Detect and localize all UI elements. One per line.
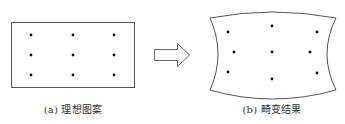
distorted-dot-grid (227, 25, 319, 81)
ideal-dot-grid (30, 34, 116, 77)
grid-dot (72, 34, 75, 37)
grid-dot (271, 51, 274, 54)
grid-dot (316, 72, 319, 75)
grid-dot (316, 31, 319, 34)
grid-dot (72, 54, 75, 57)
grid-dot (30, 74, 33, 77)
grid-dot (113, 54, 116, 57)
grid-dot (309, 51, 312, 54)
grid-dot (271, 78, 274, 81)
grid-dot (30, 54, 33, 57)
grid-dot (113, 34, 116, 37)
grid-dot (227, 71, 230, 74)
grid-dot (30, 34, 33, 37)
grid-dot (72, 74, 75, 77)
grid-dot (113, 74, 116, 77)
grid-dot (233, 51, 236, 54)
panel-a-ideal-pattern (12, 23, 135, 88)
grid-dot (271, 25, 274, 28)
caption-a: (a) 理想图案 (44, 101, 103, 116)
grid-dot (227, 31, 230, 34)
panel-b-distorted-result (210, 12, 336, 99)
caption-b: (b) 畸变结果 (243, 101, 302, 116)
hollow-right-arrow-icon (155, 44, 190, 67)
